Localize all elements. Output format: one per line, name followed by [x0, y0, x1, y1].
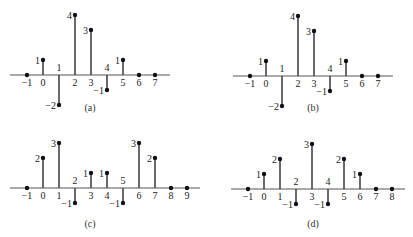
stem-marker: [342, 157, 346, 161]
value-label: 1: [115, 55, 120, 66]
x-tick-label: 3: [89, 190, 94, 201]
caption-d: (d): [307, 218, 319, 229]
x-tick-label: 4: [328, 63, 333, 74]
x-tick-label: 0: [262, 191, 267, 202]
x-tick-label: 1: [280, 63, 285, 74]
value-label: 1: [352, 169, 357, 180]
value-label: 3: [304, 139, 309, 150]
stem-marker: [326, 202, 330, 206]
value-label: −1: [109, 198, 120, 209]
value-label: −2: [45, 100, 56, 111]
stem-marker: [358, 172, 362, 176]
stem-marker: [73, 13, 77, 17]
x-tick-label: 4: [105, 62, 110, 73]
stem-marker: [344, 59, 348, 63]
value-label: 1: [256, 169, 261, 180]
stem-marker: [312, 29, 316, 33]
caption-a: (a): [84, 102, 95, 113]
x-tick-label: 4: [326, 176, 331, 187]
x-tick-label: 7: [153, 77, 158, 88]
x-tick-label: −1: [243, 191, 254, 202]
stem-marker: [57, 141, 61, 145]
stem-marker: [137, 141, 141, 145]
stem-marker: [264, 59, 268, 63]
stem-marker: [280, 104, 284, 108]
x-tick-label: 6: [137, 190, 142, 201]
value-label: 1: [99, 168, 104, 179]
x-tick-label: 2: [296, 78, 301, 89]
value-label: −2: [268, 101, 279, 112]
x-tick-label: 5: [121, 77, 126, 88]
value-label: 2: [35, 153, 40, 164]
stem-marker: [310, 142, 314, 146]
value-label: 1: [338, 56, 343, 67]
x-tick-label: 0: [264, 78, 269, 89]
stem-marker: [105, 88, 109, 92]
stem-marker: [121, 201, 125, 205]
x-tick-label: 9: [185, 190, 190, 201]
value-label: 2: [336, 154, 341, 165]
value-label: 3: [306, 26, 311, 37]
x-tick-label: 0: [41, 190, 46, 201]
x-tick-label: 8: [169, 190, 174, 201]
value-label: 3: [131, 138, 136, 149]
x-tick-label: 5: [342, 191, 347, 202]
x-tick-label: 6: [358, 191, 363, 202]
value-label: 3: [83, 25, 88, 36]
caption-c: (c): [84, 218, 95, 229]
stem-marker: [89, 28, 93, 32]
stem-marker: [296, 14, 300, 18]
stem-marker: [153, 156, 157, 160]
stem-marker: [328, 89, 332, 93]
value-label: −1: [282, 199, 293, 210]
stem-marker: [73, 201, 77, 205]
value-label: 1: [83, 168, 88, 179]
x-tick-label: 7: [153, 190, 158, 201]
x-tick-label: 6: [360, 78, 365, 89]
value-label: 4: [67, 10, 72, 21]
stem-plots-figure: −110−214233−141567−110−214233−141567−120…: [0, 0, 413, 237]
value-label: −1: [316, 86, 327, 97]
stem-marker: [89, 171, 93, 175]
stem-marker: [278, 157, 282, 161]
value-label: 1: [258, 56, 263, 67]
x-tick-label: −1: [22, 190, 33, 201]
value-label: 1: [35, 55, 40, 66]
value-label: −1: [314, 199, 325, 210]
stem-marker: [121, 58, 125, 62]
stem-marker: [41, 58, 45, 62]
value-label: 3: [51, 138, 56, 149]
x-tick-label: 1: [57, 62, 62, 73]
value-label: 2: [272, 154, 277, 165]
x-tick-label: 6: [137, 77, 142, 88]
caption-b: (b): [307, 102, 319, 113]
x-tick-label: 5: [121, 175, 126, 186]
x-tick-label: −1: [22, 77, 33, 88]
x-tick-label: −1: [245, 78, 256, 89]
x-tick-label: 7: [376, 78, 381, 89]
stem-marker: [294, 202, 298, 206]
stem-marker: [262, 172, 266, 176]
stem-marker: [41, 156, 45, 160]
x-tick-label: 2: [294, 176, 299, 187]
stem-marker: [105, 171, 109, 175]
x-tick-label: 5: [344, 78, 349, 89]
stem-marker: [57, 103, 61, 107]
x-tick-label: 2: [73, 175, 78, 186]
x-tick-label: 0: [41, 77, 46, 88]
x-tick-label: 7: [374, 191, 379, 202]
value-label: −1: [93, 85, 104, 96]
value-label: 2: [147, 153, 152, 164]
value-label: −1: [61, 198, 72, 209]
x-tick-label: 8: [390, 191, 395, 202]
value-label: 4: [290, 11, 295, 22]
x-tick-label: 2: [73, 77, 78, 88]
